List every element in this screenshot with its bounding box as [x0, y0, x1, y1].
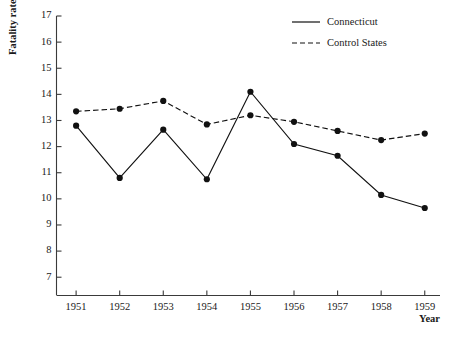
y-axis-title: Fatality rate	[7, 0, 18, 55]
y-tick-label-8: 8	[46, 244, 51, 255]
x-tick-label-1952: 1952	[109, 301, 130, 312]
data-point-1951	[73, 108, 79, 114]
x-axis-title: Year	[419, 313, 440, 324]
data-point-1954	[204, 176, 210, 182]
data-point-1957	[334, 128, 340, 134]
chart-legend: Connecticut Control States	[292, 16, 387, 48]
x-tick-label-1954: 1954	[196, 301, 218, 312]
data-point-1952	[117, 175, 123, 181]
y-tick-label-13: 13	[41, 114, 52, 125]
data-point-1957	[334, 153, 340, 159]
data-point-1955	[247, 89, 253, 95]
y-tick-label-17: 17	[41, 9, 52, 20]
data-point-1956	[291, 119, 297, 125]
series-layer	[73, 89, 428, 211]
data-point-1953	[160, 98, 166, 104]
data-point-1951	[73, 123, 79, 129]
y-tick-label-7: 7	[46, 271, 51, 282]
x-tick-label-1957: 1957	[327, 301, 348, 312]
fatality-rate-line-chart: 7891011121314151617 Fatality rate 195119…	[0, 0, 461, 337]
x-tick-label-1951: 1951	[66, 301, 87, 312]
chart-container: 7891011121314151617 Fatality rate 195119…	[0, 0, 461, 337]
data-point-1956	[291, 141, 297, 147]
data-point-1959	[422, 205, 428, 211]
series-line	[76, 101, 425, 140]
legend-label-connecticut: Connecticut	[327, 16, 378, 27]
data-point-1958	[378, 137, 384, 143]
data-point-1952	[117, 106, 123, 112]
legend-label-control-states: Control States	[327, 37, 387, 48]
y-tick-label-10: 10	[41, 192, 52, 203]
y-tick-label-9: 9	[46, 218, 51, 229]
y-axis-group: 7891011121314151617 Fatality rate	[7, 0, 62, 295]
y-tick-label-12: 12	[41, 140, 52, 151]
y-tick-label-15: 15	[41, 62, 52, 73]
y-tick-label-16: 16	[41, 36, 52, 47]
data-point-1959	[422, 130, 428, 136]
series-line	[76, 92, 425, 208]
x-tick-label-1953: 1953	[153, 301, 174, 312]
y-tick-label-14: 14	[41, 88, 52, 99]
data-point-1953	[160, 127, 166, 133]
x-tick-label-1958: 1958	[371, 301, 392, 312]
x-tick-label-1955: 1955	[240, 301, 261, 312]
x-axis-group: 195119521953195419551956195719581959 Yea…	[57, 291, 441, 325]
x-tick-group: 195119521953195419551956195719581959	[66, 291, 436, 312]
series-connecticut	[73, 89, 428, 211]
data-point-1958	[378, 192, 384, 198]
y-tick-group: 7891011121314151617	[41, 9, 62, 281]
data-point-1954	[204, 121, 210, 127]
x-tick-label-1956: 1956	[284, 301, 305, 312]
y-tick-label-11: 11	[41, 166, 51, 177]
series-control-states	[73, 98, 428, 143]
x-tick-label-1959: 1959	[414, 301, 435, 312]
data-point-1955	[247, 112, 253, 118]
